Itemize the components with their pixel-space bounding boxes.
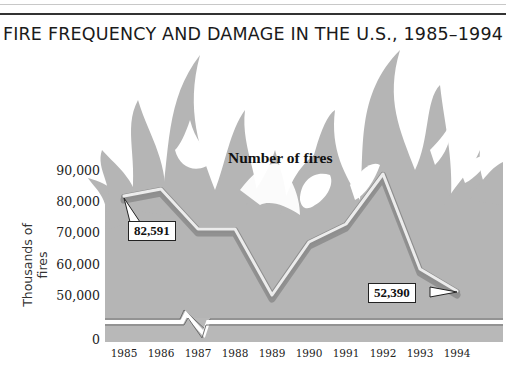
y-tick-60000: 60,000	[40, 257, 100, 272]
series-title: Number of fires	[228, 149, 332, 167]
x-tick-1985: 1985	[106, 347, 142, 359]
x-tick-1988: 1988	[217, 347, 253, 359]
y-tick-80000: 80,000	[40, 194, 100, 209]
chart-area	[0, 0, 506, 380]
x-tick-1993: 1993	[402, 347, 438, 359]
callout-1985-value: 82,591	[128, 221, 176, 241]
x-tick-1990: 1990	[291, 347, 327, 359]
callout-1994-value: 52,390	[368, 283, 416, 303]
x-tick-1992: 1992	[365, 347, 401, 359]
x-tick-1987: 1987	[180, 347, 216, 359]
x-tick-1989: 1989	[254, 347, 290, 359]
x-tick-1994: 1994	[439, 347, 475, 359]
y-tick-70000: 70,000	[40, 225, 100, 240]
x-tick-1986: 1986	[143, 347, 179, 359]
y-tick-50000: 50,000	[40, 288, 100, 303]
y-tick-90000: 90,000	[40, 163, 100, 178]
x-tick-1991: 1991	[328, 347, 364, 359]
y-tick-0: 0	[40, 332, 100, 347]
